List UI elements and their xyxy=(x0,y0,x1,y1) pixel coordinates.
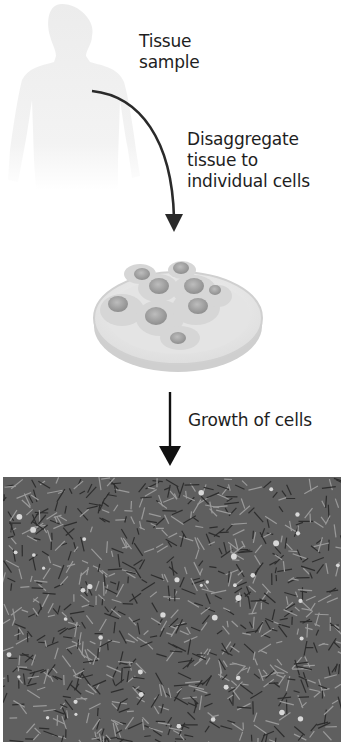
label-line: Disaggregate xyxy=(187,129,310,150)
disaggregate-label: Disaggregate tissue to individual cells xyxy=(187,129,310,192)
petri-dish xyxy=(90,242,270,382)
label-line: Growth of cells xyxy=(188,410,312,431)
label-line: tissue to xyxy=(187,150,310,171)
down-arrow-icon xyxy=(155,390,185,470)
growth-of-cells-label: Growth of cells xyxy=(188,410,312,431)
cultured-cells-micrograph xyxy=(3,477,341,742)
curved-arrow-icon xyxy=(0,0,348,240)
label-line: individual cells xyxy=(187,171,310,192)
